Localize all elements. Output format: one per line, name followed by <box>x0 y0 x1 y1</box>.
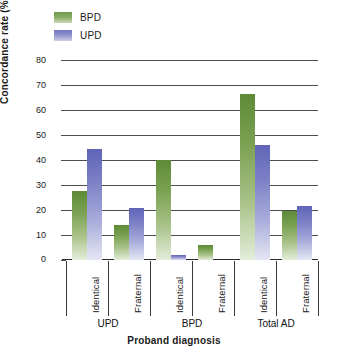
category-separator-5 <box>276 261 277 316</box>
gridline-20 <box>66 210 318 211</box>
bar-bpd-total-identical <box>240 94 255 260</box>
legend-item-bpd: BPD <box>54 10 164 25</box>
category-separator-3 <box>192 261 193 316</box>
bar-bpd-bpd-identical <box>156 160 171 260</box>
gridline-40 <box>66 160 318 161</box>
gridline-60 <box>66 110 318 111</box>
legend-label-upd: UPD <box>80 30 102 41</box>
bar-bpd-upd-fraternal <box>114 225 129 260</box>
gridline-70 <box>66 85 318 86</box>
ytick-label-80: 80 <box>20 56 46 65</box>
y-axis-title: Concordance rate (%) <box>0 0 10 104</box>
ytick-mark-60 <box>61 110 66 111</box>
gridline-30 <box>66 185 318 186</box>
group-label-total-ad: Total AD <box>234 318 318 329</box>
figure-caption <box>0 352 348 361</box>
category-separator-2 <box>150 261 151 316</box>
x-tick-label-3: Fraternal <box>216 274 227 313</box>
bar-upd-bpd-identical <box>171 255 186 260</box>
gridline-80 <box>66 60 318 61</box>
legend-item-upd: UPD <box>54 28 164 43</box>
x-tick-label-1: Fraternal <box>132 274 143 313</box>
bar-bpd-upd-identical <box>72 191 87 260</box>
category-separator-4 <box>234 261 235 316</box>
legend-label-bpd: BPD <box>80 12 101 23</box>
green-swatch-icon <box>54 12 72 23</box>
ytick-label-40: 40 <box>20 156 46 165</box>
bar-bpd-bpd-fraternal <box>198 245 213 260</box>
x-axis-title: Proband diagnosis <box>0 335 348 346</box>
bar-upd-total-identical <box>255 145 270 260</box>
x-tick-label-4: Identical <box>258 277 269 313</box>
ytick-label-0: 0 <box>20 255 46 264</box>
category-separator-6 <box>318 261 319 316</box>
group-label-bpd: BPD <box>150 318 234 329</box>
ytick-label-30: 30 <box>20 181 46 190</box>
chart-legend: BPD UPD <box>54 10 164 46</box>
ytick-mark-50 <box>61 135 66 136</box>
ytick-mark-20 <box>61 210 66 211</box>
ytick-label-20: 20 <box>20 206 46 215</box>
bar-upd-total-fraternal <box>297 206 312 260</box>
bar-upd-upd-identical <box>87 149 102 260</box>
category-separator-0 <box>66 261 67 316</box>
group-label-upd: UPD <box>66 318 150 329</box>
ytick-mark-10 <box>61 235 66 236</box>
plot-area: 80 70 60 50 40 30 20 10 0 <box>66 60 318 260</box>
category-separator-1 <box>108 261 109 316</box>
ytick-label-70: 70 <box>20 81 46 90</box>
ytick-mark-80 <box>61 60 66 61</box>
ytick-label-10: 10 <box>20 231 46 240</box>
bar-upd-upd-fraternal <box>129 208 144 261</box>
bar-bpd-total-fraternal <box>282 211 297 260</box>
ytick-label-60: 60 <box>20 106 46 115</box>
x-tick-label-0: Identical <box>90 277 101 313</box>
figure-bar-chart: BPD UPD Concordance rate (%) 80 70 60 50… <box>0 0 348 361</box>
ytick-mark-30 <box>61 185 66 186</box>
ytick-mark-40 <box>61 160 66 161</box>
x-tick-label-2: Identical <box>174 277 185 313</box>
gridline-10 <box>66 235 318 236</box>
x-tick-label-5: Fraternal <box>300 274 311 313</box>
gridline-50 <box>66 135 318 136</box>
ytick-mark-70 <box>61 85 66 86</box>
blue-swatch-icon <box>54 30 72 41</box>
ytick-label-50: 50 <box>20 131 46 140</box>
